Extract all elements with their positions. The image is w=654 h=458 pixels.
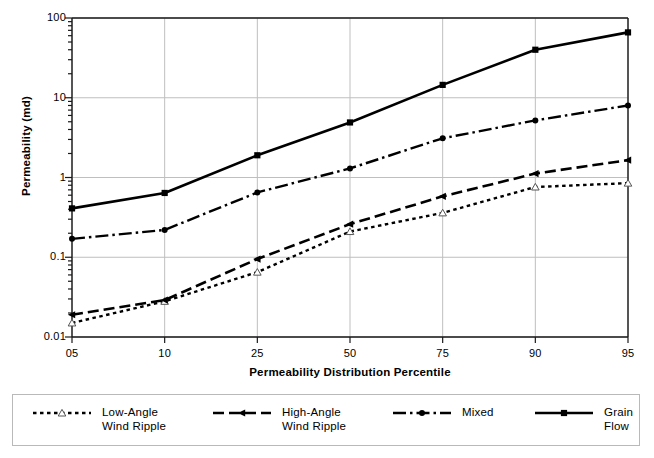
y-tick-label: 1 [20,171,66,183]
legend-item-high-angle-wind-ripple[interactable]: High-Angle Wind Ripple [211,405,346,433]
axis-ticks [65,18,628,343]
x-tick-label: 90 [515,347,555,359]
y-tick-label: 0.1 [20,250,66,262]
data-point-marker [440,82,446,88]
chart-page: Permeability (md) Permeability Distribut… [0,0,654,458]
x-tick-label: 95 [608,347,648,359]
gridlines [72,18,628,337]
data-point-marker [347,165,353,171]
legend-label: Grain Flow [604,405,639,433]
data-point-marker [532,183,540,190]
legend-marker [561,410,567,416]
data-point-marker [625,102,631,108]
data-point-marker [532,117,538,123]
legend-label: High-Angle Wind Ripple [282,405,346,433]
data-point-marker [162,190,168,196]
legend-item-mixed[interactable]: Mixed [391,405,494,420]
legend-label: Mixed [462,405,494,419]
legend-line-sample [31,406,93,420]
legend-line-sample [391,406,453,420]
x-tick-label: 05 [52,347,92,359]
legend-item-grain-flow[interactable]: Grain Flow [533,405,639,433]
data-point-marker [347,119,353,125]
y-tick-label: 0.01 [20,330,66,342]
legend-marker [419,410,425,416]
data-point-marker [69,236,75,242]
legend-line-sample [211,406,273,420]
data-point-marker [532,47,538,53]
x-axis-label: Permeability Distribution Percentile [72,366,628,378]
legend-marker [238,409,245,416]
permeability-percentile-chart: Permeability (md) Permeability Distribut… [0,0,654,458]
x-tick-label: 10 [145,347,185,359]
data-point-marker [625,29,631,35]
legend-line-sample [533,406,595,420]
data-point-marker [69,205,75,211]
y-tick-label: 100 [20,11,66,23]
plot-canvas [0,0,654,458]
data-point-marker [440,135,446,141]
x-tick-label: 50 [330,347,370,359]
data-point-marker [254,189,260,195]
y-tick-label: 10 [20,91,66,103]
x-tick-label: 25 [237,347,277,359]
x-tick-label: 75 [423,347,463,359]
legend-item-low-angle-wind-ripple[interactable]: Low-Angle Wind Ripple [31,405,166,433]
chart-legend: Low-Angle Wind RippleHigh-Angle Wind Rip… [12,394,640,446]
data-point-marker [253,255,260,262]
data-point-marker [162,227,168,233]
legend-marker [58,409,66,416]
legend-label: Low-Angle Wind Ripple [102,405,166,433]
data-point-marker [254,152,260,158]
